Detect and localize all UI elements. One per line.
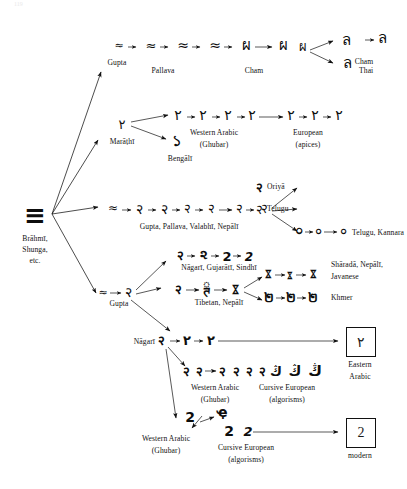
glyph-cursive-2a: २ [183, 362, 190, 380]
glyph-cursive-euro-2: 2 [243, 424, 252, 439]
glyph-cham-2b: ผ [279, 33, 288, 57]
glyph-warabic-2b: ٢ [199, 107, 207, 123]
glyph-gupta-2-r1: ≈ [114, 39, 123, 52]
label-oriya: Oriyā [267, 182, 285, 191]
glyph-cham-2c: ผ [299, 36, 307, 57]
glyph-cursive-2f: २ [259, 362, 266, 380]
root-label-line2: Shunga, [22, 245, 47, 254]
glyph-tibetan-2a: २ [175, 280, 182, 298]
label-ghubar-r5: (Ghubar) [201, 395, 230, 404]
glyph-nagari-2d: ٢ [207, 333, 215, 348]
eastern-arabic-box: ٢ [346, 327, 376, 357]
glyph-nepali-2d: ೱ [232, 281, 239, 298]
glyph-cursive-2i: ڭ [308, 362, 322, 380]
label-western-arabic-r6: Western Arabic [142, 434, 190, 443]
glyph-cursive-2e: २ [246, 362, 253, 380]
glyph-nagari-2a: २ [177, 246, 184, 264]
glyph-warabic-2d: ٢ [248, 107, 256, 123]
label-marathi: Marāṭhī [110, 137, 135, 146]
glyph-cham-2a: ผ [242, 33, 251, 57]
glyph-sharada-2a: ೱ [265, 266, 272, 282]
label-nagari: Nāgarī [134, 337, 155, 346]
glyph-nagari-2b: २ [158, 331, 165, 349]
glyph-sharada-2b: ೱ [287, 269, 293, 282]
glyph-european-2a: ٢ [287, 107, 295, 123]
modern-box: 2 [346, 418, 376, 448]
glyph-sindhi-2b: 2 [245, 250, 253, 264]
label-khmer: Khmer [331, 293, 353, 302]
label-apices: (apices) [296, 140, 321, 149]
glyph-oriya-2: २ [256, 178, 263, 196]
label-cham-right: Cham [355, 57, 374, 66]
glyph-telugu-kannara-2c: ০ [340, 223, 347, 242]
glyph-ghubar-2a: 2 [185, 409, 195, 425]
label-telugu-kannara: Telugu, Kannara [352, 228, 404, 237]
label-eastern: Eastern [348, 360, 371, 369]
label-telugu: Telugu [267, 204, 289, 213]
glyph-gupta-2-r4: ≈ [98, 286, 107, 299]
label-gupta-r1: Gupta [107, 58, 126, 67]
glyph-warabic-2c: ٢ [224, 107, 232, 123]
glyph-valabhi-2c: २ [184, 199, 191, 217]
label-tibetan-nepali: Tibetan, Nepālī [195, 298, 243, 307]
label-cursive-european-r6: Cursive European [218, 443, 274, 452]
label-thai: Thai [359, 66, 373, 75]
label-modern: modern [348, 451, 372, 460]
label-ghubar-r6: (Ghubar) [152, 446, 181, 455]
label-algorisms-r6: (algorisms) [228, 455, 264, 464]
glyph-telugu-kannara-2b: ০ [315, 223, 322, 242]
glyph-khmer-2c: ២ [308, 289, 318, 308]
glyph-gujarati-2: ૨ [200, 247, 208, 263]
glyph-warabic-2a: ٢ [174, 107, 182, 123]
label-cursive-european-r5: Cursive European [259, 383, 315, 392]
label-algorisms-r5: (algorisms) [269, 395, 305, 404]
glyph-khmer-2b: ២ [286, 289, 296, 308]
label-gupta-r4: Gupta [109, 299, 128, 308]
label-european: European [293, 128, 323, 137]
glyph-gupta-2-r3: ≈ [108, 201, 118, 215]
trunk-branch-lines [52, 72, 101, 293]
glyph-telugu-2: २ [256, 200, 263, 218]
glyph-nepali-2a: २ [208, 199, 215, 217]
glyph-cursive-2c: २ [219, 362, 226, 380]
glyph-telugu-kannara-2a: ০ [295, 221, 303, 242]
label-sharada-nepali: Shāradā, Nepālī, [331, 260, 383, 269]
glyph-nagari-2c: ٢ [183, 333, 191, 348]
glyph-pallava-2b: ≈ [177, 37, 189, 53]
label-pallava: Pallava [151, 66, 174, 75]
label-ghubar-r2: (Ghubar) [200, 140, 229, 149]
glyph-brahmi-root: ≡ [24, 200, 46, 230]
glyph-pallava-2a: ≈ [146, 38, 157, 53]
eastern-arabic-glyph: ٢ [357, 334, 365, 351]
label-javanese: Javanese [331, 272, 359, 281]
glyph-cursive-2d: २ [233, 362, 240, 380]
glyph-pallava-2c: ≈ [209, 37, 221, 53]
label-gupta-pallava-valabhi-nepali: Gupta, Pallava, Valabhī, Nepālī [140, 222, 239, 231]
glyph-cursive-2b: २ [196, 362, 203, 380]
row1-arrows [128, 40, 374, 63]
glyph-thai-2: ล [343, 51, 352, 75]
glyph-european-2c: ٢ [335, 107, 343, 123]
glyph-cursive-2g: ڭ [270, 364, 282, 379]
root-label-line1: Brāhmī, [22, 234, 47, 243]
root-label-line3: etc. [29, 256, 40, 265]
glyph-cham-2e: ล [378, 26, 387, 50]
glyph-bengali-2: ১ [172, 129, 182, 154]
label-western-arabic-r2: Western Arabic [190, 128, 238, 137]
glyph-sindhi-2a: 2 [222, 249, 231, 264]
glyph-gupta-2-r4b: २ [125, 282, 132, 301]
modern-glyph: 2 [358, 425, 365, 441]
glyph-valabhi-2b: २ [161, 199, 168, 218]
row6-arrows [192, 416, 338, 432]
glyph-cham-2d: ล [342, 28, 351, 52]
glyph-cursive-2h: ڭ [289, 363, 302, 379]
label-bengali: Bengālī [168, 154, 192, 163]
glyph-javanese-2: ೱ [310, 266, 317, 282]
glyph-marathi-2: ٢ [119, 117, 126, 132]
glyph-ghubar-2b: ҿ [216, 404, 227, 420]
diagram-page: 119 [0, 0, 407, 489]
glyph-valabhi-2a: २ [136, 199, 143, 218]
label-nagari-gujarati-sindhi: Nāgarī, Gujarātī, Sindhī [181, 263, 256, 272]
label-cham-mid: Cham [245, 66, 264, 75]
glyph-nepali-2b: २ [236, 199, 243, 217]
